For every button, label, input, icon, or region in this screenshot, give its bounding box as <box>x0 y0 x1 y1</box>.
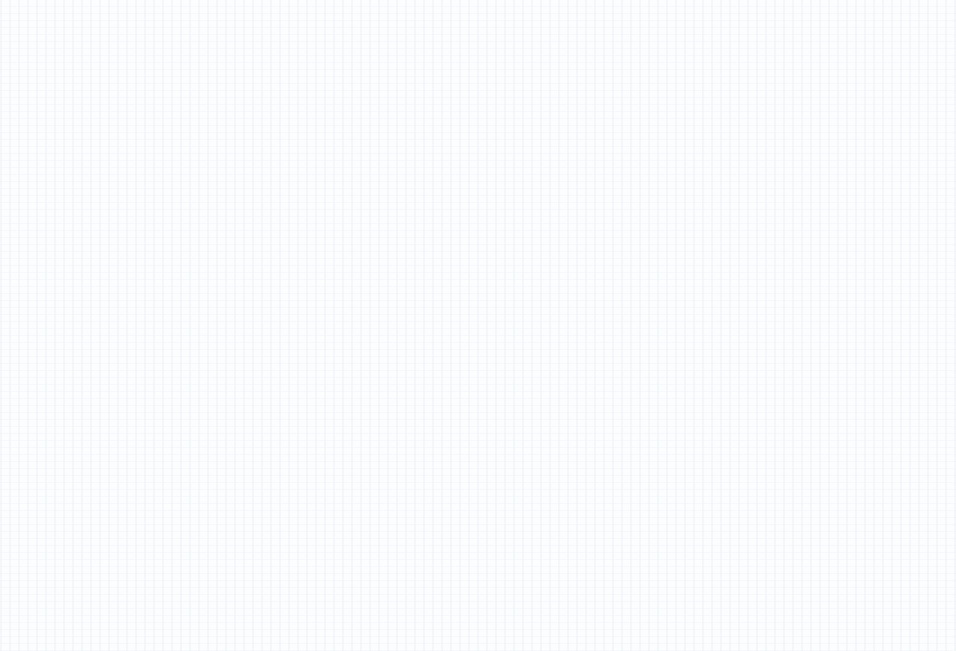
plot-canvas <box>0 0 956 651</box>
scatter-plot-figure <box>0 0 956 651</box>
